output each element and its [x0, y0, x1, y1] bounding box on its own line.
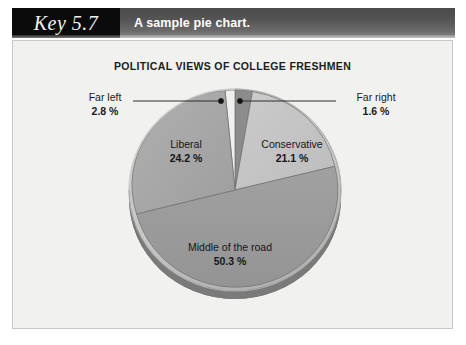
figure-body-frame: POLITICAL VIEWS OF COLLEGE FRESHMEN — [12, 40, 453, 329]
slice-label-liberal-name: Liberal — [148, 137, 224, 151]
slice-label-conservative: Conservative 21.1 % — [240, 137, 344, 166]
chart-title: POLITICAL VIEWS OF COLLEGE FRESHMEN — [13, 60, 452, 72]
callout-far-right: Far right 1.6 % — [338, 91, 414, 118]
callout-far-left-name: Far left — [70, 91, 140, 104]
callout-far-right-name: Far right — [338, 91, 414, 104]
callout-far-left-value: 2.8 % — [70, 104, 140, 118]
key-number-label: Key 5.7 — [12, 10, 120, 37]
slice-label-middle-name: Middle of the road — [155, 240, 305, 254]
key-number-box: Key 5.7 — [12, 8, 120, 38]
figure-header-band: Key 5.7 A sample pie chart. — [12, 8, 455, 38]
slice-label-liberal-value: 24.2 % — [148, 151, 224, 166]
slice-label-liberal: Liberal 24.2 % — [148, 137, 224, 166]
figure-page: Key 5.7 A sample pie chart. POLITICAL VI… — [0, 0, 466, 345]
callout-far-right-value: 1.6 % — [338, 104, 414, 118]
figure-caption: A sample pie chart. — [134, 8, 250, 38]
slice-label-middle-value: 50.3 % — [155, 254, 305, 269]
callout-far-left: Far left 2.8 % — [70, 91, 140, 118]
slice-label-middle-of-the-road: Middle of the road 50.3 % — [155, 240, 305, 269]
slice-label-conservative-name: Conservative — [240, 137, 344, 151]
slice-label-conservative-value: 21.1 % — [240, 151, 344, 166]
